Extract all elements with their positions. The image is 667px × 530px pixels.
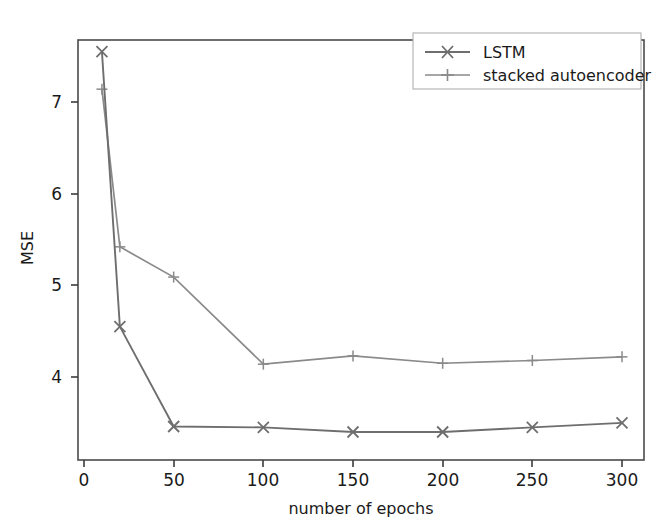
x-tick-label-200: 200 <box>427 470 459 490</box>
y-axis-ticks <box>71 102 78 377</box>
x-tick-label-100: 100 <box>247 470 279 490</box>
mse-vs-epochs-line-chart: 7 6 5 4 0 50 100 150 200 250 300 number … <box>0 0 667 530</box>
figure-canvas: 7 6 5 4 0 50 100 150 200 250 300 number … <box>0 0 667 530</box>
x-tick-label-300: 300 <box>606 470 638 490</box>
x-axis-title: number of epochs <box>288 499 433 518</box>
x-axis-ticks <box>84 460 622 467</box>
plot-background <box>78 40 644 460</box>
x-axis-tick-labels: 0 50 100 150 200 250 300 <box>79 470 639 490</box>
y-tick-label-4: 4 <box>51 367 62 387</box>
legend-label-stacked-autoencoder: stacked autoencoder <box>483 66 652 85</box>
y-tick-label-6: 6 <box>51 184 62 204</box>
x-tick-label-0: 0 <box>79 470 90 490</box>
y-axis-title: MSE <box>18 231 37 265</box>
legend-label-lstm: LSTM <box>483 43 526 62</box>
legend[interactable]: LSTM stacked autoencoder <box>413 33 652 89</box>
x-tick-label-50: 50 <box>163 470 185 490</box>
y-axis-tick-labels: 7 6 5 4 <box>51 92 62 387</box>
y-tick-label-7: 7 <box>51 92 62 112</box>
x-tick-label-150: 150 <box>337 470 369 490</box>
y-tick-label-5: 5 <box>51 275 62 295</box>
x-tick-label-250: 250 <box>516 470 548 490</box>
